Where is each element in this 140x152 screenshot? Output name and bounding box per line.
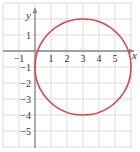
chart: −1123451−1−2−3−4−5 x y xyxy=(0,0,140,152)
x-tick-label: 4 xyxy=(97,53,102,64)
y-tick-label: −2 xyxy=(20,78,31,89)
y-tick-label: −3 xyxy=(20,94,31,105)
y-axis-arrow-icon xyxy=(33,8,38,13)
x-tick-label: 5 xyxy=(113,53,118,64)
y-tick-label: 1 xyxy=(26,30,31,41)
x-tick-label: 1 xyxy=(49,53,54,64)
y-tick-label: −1 xyxy=(20,62,31,73)
x-tick-label: 3 xyxy=(81,53,86,64)
y-axis-label: y xyxy=(25,9,31,21)
x-tick-label: 2 xyxy=(65,53,70,64)
y-tick-label: −5 xyxy=(20,126,31,137)
y-tick-label: −4 xyxy=(20,110,31,121)
x-axis-label: x xyxy=(131,49,137,61)
